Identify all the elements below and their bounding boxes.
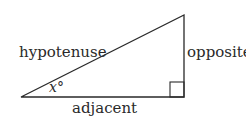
angle-label: x° xyxy=(49,79,64,95)
adjacent-label: adjacent xyxy=(72,99,137,117)
right-angle-marker xyxy=(170,82,184,97)
hypotenuse-label: hypotenuse xyxy=(19,43,107,61)
right-triangle-diagram: hypotenuse opposite adjacent x° xyxy=(0,0,246,124)
opposite-label: opposite xyxy=(187,43,246,61)
